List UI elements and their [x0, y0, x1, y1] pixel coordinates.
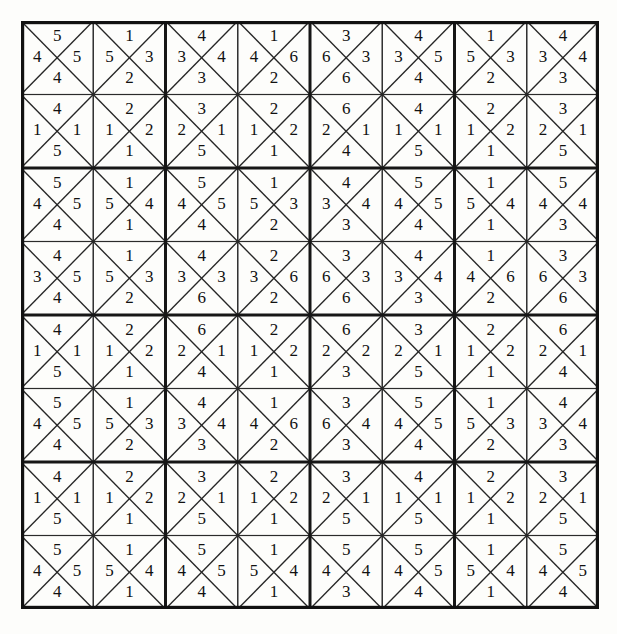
- grid-cell[interactable]: 2211: [93, 95, 165, 169]
- cell-number-right: 4: [578, 194, 587, 213]
- grid-cell[interactable]: 1415: [238, 536, 310, 610]
- grid-cell[interactable]: 4543: [382, 21, 454, 95]
- cell-number-top: 5: [53, 540, 62, 559]
- grid-cell[interactable]: 1325: [238, 168, 310, 242]
- cell-number-left: 2: [322, 341, 331, 360]
- grid-cell[interactable]: 4433: [527, 389, 599, 463]
- cell-number-left: 5: [105, 194, 114, 213]
- grid-cell[interactable]: 5434: [527, 168, 599, 242]
- grid-cell[interactable]: 4151: [382, 95, 454, 169]
- grid-cell[interactable]: 2211: [455, 95, 527, 169]
- grid-cell[interactable]: 4543: [21, 242, 93, 316]
- cell-number-right: 4: [506, 561, 515, 580]
- grid-cell[interactable]: 1325: [455, 21, 527, 95]
- grid-cell[interactable]: 5544: [21, 21, 93, 95]
- grid-cell[interactable]: 4433: [310, 168, 382, 242]
- grid-cell[interactable]: 6142: [310, 95, 382, 169]
- grid-cell[interactable]: 5544: [382, 536, 454, 610]
- puzzle-grid[interactable]: 5544132544331624336645431325443341512211…: [21, 21, 599, 609]
- grid-cell[interactable]: 6142: [166, 315, 238, 389]
- cell-number-left: 1: [33, 120, 42, 139]
- grid-cell[interactable]: 1325: [93, 21, 165, 95]
- grid-cell[interactable]: 4433: [382, 242, 454, 316]
- grid-cell[interactable]: 4151: [382, 462, 454, 536]
- grid-cell[interactable]: 5434: [310, 536, 382, 610]
- cell-number-top: 1: [270, 173, 279, 192]
- grid-cell[interactable]: 5544: [527, 536, 599, 610]
- grid-cell[interactable]: 5544: [21, 389, 93, 463]
- grid-cell[interactable]: 3436: [310, 389, 382, 463]
- cell-number-top: 4: [53, 467, 62, 486]
- cell-number-top: 1: [270, 393, 279, 412]
- grid-cell[interactable]: 2623: [238, 242, 310, 316]
- grid-cell[interactable]: 3152: [310, 462, 382, 536]
- cell-number-right: 1: [434, 120, 443, 139]
- grid-cell[interactable]: 6232: [310, 315, 382, 389]
- cell-number-top: 5: [53, 173, 62, 192]
- grid-cell[interactable]: 1415: [455, 536, 527, 610]
- cell-number-bottom: 1: [270, 582, 279, 601]
- grid-cell[interactable]: 2211: [455, 315, 527, 389]
- grid-cell[interactable]: 5544: [166, 168, 238, 242]
- grid-cell[interactable]: 1415: [93, 168, 165, 242]
- grid-cell[interactable]: 2211: [238, 95, 310, 169]
- cell-number-left: 3: [178, 47, 187, 66]
- grid-cell[interactable]: 3366: [310, 242, 382, 316]
- grid-cell[interactable]: 5544: [382, 389, 454, 463]
- grid-cell[interactable]: 3366: [527, 242, 599, 316]
- cell-number-right: 4: [217, 47, 226, 66]
- cell-number-top: 2: [486, 99, 495, 118]
- grid-cell[interactable]: 2211: [238, 315, 310, 389]
- grid-cell[interactable]: 5544: [166, 536, 238, 610]
- grid-cell[interactable]: 5544: [21, 536, 93, 610]
- grid-cell[interactable]: 2211: [238, 462, 310, 536]
- cell-number-right: 1: [434, 341, 443, 360]
- cell-number-left: 4: [394, 414, 403, 433]
- grid-cell[interactable]: 4151: [21, 315, 93, 389]
- grid-cell[interactable]: 1624: [238, 389, 310, 463]
- grid-cell[interactable]: 4433: [527, 21, 599, 95]
- cell-number-right: 4: [362, 414, 371, 433]
- cell-number-left: 4: [539, 194, 548, 213]
- grid-cell[interactable]: 1415: [93, 536, 165, 610]
- grid-cell[interactable]: 2211: [93, 315, 165, 389]
- cell-number-top: 6: [197, 320, 206, 339]
- grid-cell[interactable]: 4151: [21, 462, 93, 536]
- grid-cell[interactable]: 4433: [166, 21, 238, 95]
- cell-number-left: 4: [322, 561, 331, 580]
- grid-cell[interactable]: 1624: [238, 21, 310, 95]
- cell-number-left: 1: [33, 341, 42, 360]
- cell-number-bottom: 4: [414, 435, 423, 454]
- grid-cell[interactable]: 1415: [455, 168, 527, 242]
- cell-number-left: 4: [539, 561, 548, 580]
- grid-cell[interactable]: 5544: [21, 168, 93, 242]
- cell-number-top: 2: [125, 99, 134, 118]
- cell-number-bottom: 2: [270, 435, 279, 454]
- cell-number-top: 6: [342, 320, 351, 339]
- cell-number-right: 1: [578, 341, 587, 360]
- grid-cell[interactable]: 1325: [93, 242, 165, 316]
- cell-number-left: 1: [467, 120, 476, 139]
- grid-cell[interactable]: 3152: [527, 95, 599, 169]
- grid-cell[interactable]: 1624: [455, 242, 527, 316]
- cell-number-right: 2: [145, 488, 154, 507]
- grid-cell[interactable]: 3152: [382, 315, 454, 389]
- grid-cell[interactable]: 3152: [166, 95, 238, 169]
- grid-cell[interactable]: 5544: [382, 168, 454, 242]
- cell-number-right: 5: [73, 267, 82, 286]
- grid-cell[interactable]: 3152: [527, 462, 599, 536]
- grid-cell[interactable]: 2211: [455, 462, 527, 536]
- cell-number-bottom: 3: [342, 582, 351, 601]
- grid-cell[interactable]: 1325: [93, 389, 165, 463]
- grid-cell[interactable]: 1325: [455, 389, 527, 463]
- grid-cell[interactable]: 4433: [166, 389, 238, 463]
- grid-cell[interactable]: 3366: [310, 21, 382, 95]
- grid-cell[interactable]: 4151: [21, 95, 93, 169]
- cell-number-left: 1: [105, 120, 114, 139]
- grid-cell[interactable]: 2211: [93, 462, 165, 536]
- grid-cell[interactable]: 4363: [166, 242, 238, 316]
- grid-cell[interactable]: 3152: [166, 462, 238, 536]
- puzzle-grid-container[interactable]: 5544132544331624336645431325443341512211…: [21, 21, 599, 609]
- grid-cell[interactable]: 6142: [527, 315, 599, 389]
- cell-number-bottom: 1: [486, 582, 495, 601]
